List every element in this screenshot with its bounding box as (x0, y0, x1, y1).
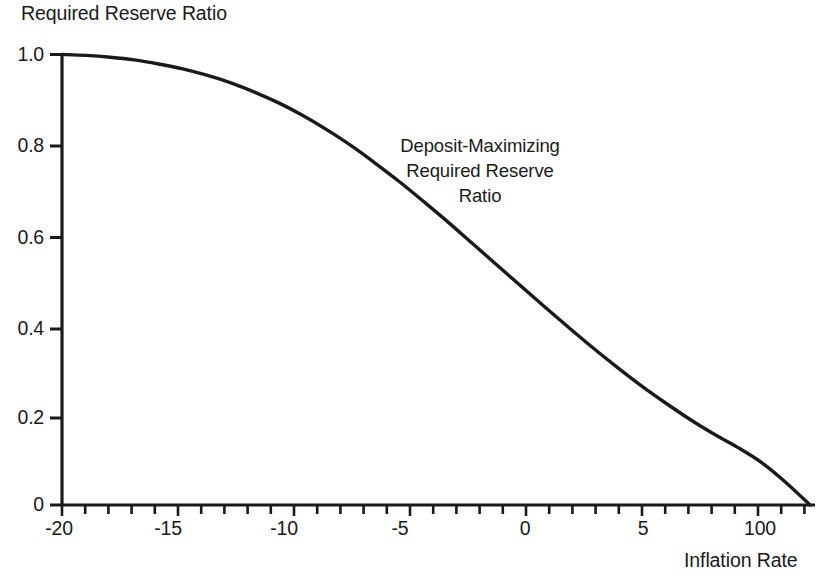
x-tick-label-0: 0 (495, 519, 555, 539)
y-axis-ticks (50, 55, 62, 506)
chart-plot-area (0, 0, 817, 578)
y-tick-label-0.2: 0.2 (0, 408, 44, 428)
curve-annotation-line-1: Deposit-Maximizing (360, 133, 600, 158)
curve-annotation-line-2: Required Reserve (360, 158, 600, 183)
data-curve (62, 55, 810, 506)
x-tick-label--20: -20 (29, 519, 89, 539)
y-tick-label-0: 0 (0, 495, 44, 515)
chart-figure: Required Reserve Ratio Inflation Rate 1.… (0, 0, 817, 578)
y-tick-label-0.6: 0.6 (0, 228, 44, 248)
x-axis-title: Inflation Rate (684, 551, 798, 571)
x-tick-label-5: 5 (613, 519, 673, 539)
x-tick-label--15: -15 (138, 519, 198, 539)
x-tick-label--5: -5 (370, 519, 430, 539)
curve-annotation: Deposit-Maximizing Required Reserve Rati… (360, 133, 600, 208)
x-tick-label-100: 100 (730, 519, 790, 539)
x-tick-label--10: -10 (254, 519, 314, 539)
x-axis-minor-ticks (62, 505, 804, 516)
y-tick-label-1.0: 1.0 (0, 45, 44, 65)
curve-annotation-line-3: Ratio (360, 183, 600, 208)
y-tick-label-0.8: 0.8 (0, 136, 44, 156)
y-tick-label-0.4: 0.4 (0, 319, 44, 339)
chart-title: Required Reserve Ratio (21, 4, 227, 24)
